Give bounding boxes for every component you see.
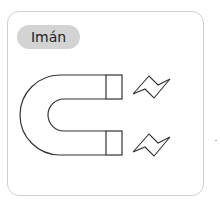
horseshoe-magnet-icon	[0, 0, 220, 203]
stray-mark	[215, 140, 217, 141]
force-zigzag-icon	[133, 76, 170, 156]
